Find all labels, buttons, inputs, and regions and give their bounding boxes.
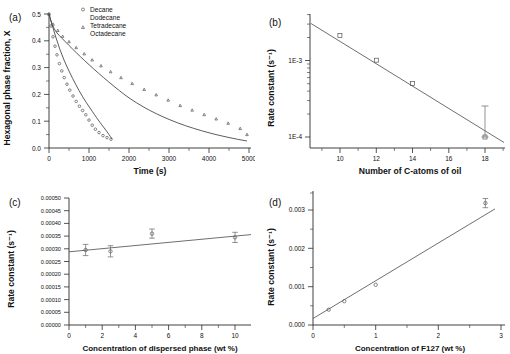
panel-d-x-ticks: 0 1 2 3 — [311, 325, 503, 339]
figure-container: (a) Hexagonal phase fraction, X 0.0 0.1 — [0, 0, 510, 354]
panel-d-ytick-0: 0.000 — [289, 321, 306, 328]
legend-marker-decane — [82, 8, 85, 11]
panel-b-xtick-2: 14 — [409, 155, 417, 162]
panel-c-point-4 — [232, 232, 238, 242]
panel-d-point-4 — [483, 199, 489, 208]
panel-d-points — [327, 199, 488, 312]
panel-b-point-c12 — [374, 58, 378, 62]
panel-c-xtick-4: 8 — [200, 332, 204, 339]
panel-d-xtick-0: 0 — [311, 332, 315, 339]
panel-b-ylabel: Rate constant (s⁻¹) — [266, 49, 276, 127]
panel-d-ytick-2: 0.002 — [289, 245, 306, 252]
panel-d-tag: (d) — [269, 197, 281, 208]
panel-c-tag: (c) — [9, 197, 21, 208]
panel-a-points-slow — [48, 13, 249, 136]
panel-a-ytick-0: 0.0 — [32, 145, 41, 152]
panel-b-xtick-1: 12 — [373, 155, 381, 162]
panel-a-xtick-4: 4000 — [202, 155, 217, 162]
panel-a-xtick-5: 5000 — [242, 155, 255, 162]
panel-c-ytick-5: 0.00025 — [41, 259, 61, 265]
panel-a-ylabel: Hexagonal phase fraction, X — [2, 30, 12, 145]
panel-d-ylabel: Rate constant (s⁻¹) — [266, 228, 276, 306]
panel-c-ytick-2: 0.00010 — [41, 297, 61, 303]
panel-d-xtick-3: 3 — [499, 332, 503, 339]
panel-b-tag: (b) — [269, 17, 281, 28]
panel-b-x-ticks: 10 12 14 16 18 — [322, 148, 503, 162]
panel-c-y-ticks: 0.00000 0.00005 0.00010 0.00015 0.00020 … — [41, 195, 69, 328]
panel-c-ytick-9: 0.00045 — [41, 208, 61, 214]
panel-b-ytick-0: 1E-4 — [288, 133, 302, 140]
panel-c: (c) Rate constant (s⁻¹) 0.00000 0.00005 — [0, 177, 255, 354]
panel-c-ytick-3: 0.00015 — [41, 284, 61, 290]
legend-marker-tetradecane — [82, 26, 85, 29]
panel-b-ytick-1: 1E-3 — [288, 57, 302, 64]
panel-a-tag: (a) — [9, 12, 21, 23]
panel-d-fit-line — [313, 209, 495, 319]
panel-a-xtick-3: 3000 — [162, 155, 177, 162]
panel-d-xlabel: Concentration of F127 (wt %) — [355, 344, 466, 353]
panel-d-xtick-1: 1 — [374, 332, 378, 339]
legend-label-octadecane: Octadecane — [90, 30, 126, 37]
panel-c-ytick-10: 0.00050 — [41, 195, 61, 201]
panel-d-ytick-1: 0.001 — [289, 283, 306, 290]
panel-a-legend: Decane Dodecane Tetradecane Octadecane — [82, 6, 127, 37]
panel-a-ytick-2: 0.2 — [32, 91, 41, 98]
panel-a-x-ticks: 0 1000 2000 3000 4000 5000 — [47, 148, 255, 162]
panel-a-xtick-1: 1000 — [82, 155, 97, 162]
panel-c-xtick-0: 0 — [67, 332, 71, 339]
panel-c-xtick-3: 6 — [167, 332, 171, 339]
panel-c-xlabel: Concentration of dispersed phase (wt %) — [82, 344, 237, 353]
panel-d: (d) Rate constant (s⁻¹) 0.000 0.001 0.00… — [255, 177, 510, 354]
panel-c-xtick-5: 10 — [231, 332, 239, 339]
legend-label-decane: Decane — [90, 6, 113, 13]
panel-c-point-3 — [149, 229, 155, 238]
panel-c-xtick-2: 4 — [134, 332, 138, 339]
panel-a-ytick-4: 0.4 — [32, 37, 41, 44]
panel-c-ytick-8: 0.00040 — [41, 220, 61, 226]
panel-c-x-ticks: 0 2 4 6 8 10 — [67, 325, 239, 339]
legend-label-dodecane: Dodecane — [90, 14, 120, 21]
panel-c-ylabel: Rate constant (s⁻¹) — [6, 230, 16, 308]
panel-b-fit-line — [311, 24, 504, 143]
panel-c-ytick-4: 0.00020 — [41, 271, 61, 277]
panel-d-xtick-2: 2 — [436, 332, 440, 339]
legend-label-tetradecane: Tetradecane — [90, 22, 127, 29]
panel-d-y-ticks: 0.000 0.001 0.002 0.003 — [289, 193, 313, 328]
panel-b-xtick-4: 18 — [481, 155, 489, 162]
panel-a-curve-slow — [49, 14, 247, 141]
panel-b-xtick-3: 16 — [445, 155, 453, 162]
panel-c-point-1 — [83, 244, 89, 255]
panel-d-ytick-3: 0.003 — [289, 206, 306, 213]
panel-a-ytick-1: 0.1 — [32, 118, 41, 125]
panel-a-xtick-0: 0 — [47, 155, 51, 162]
panel-d-point-3 — [374, 283, 377, 286]
panel-a-xlabel: Time (s) — [134, 166, 167, 176]
panel-c-xtick-1: 2 — [100, 332, 104, 339]
panel-b-y-ticks: 1E-4 1E-3 — [288, 15, 310, 141]
panel-a-xtick-2: 2000 — [122, 155, 137, 162]
panel-a-y-ticks: 0.0 0.1 0.2 0.3 0.4 0.5 — [32, 11, 49, 152]
panel-a: (a) Hexagonal phase fraction, X 0.0 0.1 — [0, 0, 255, 177]
panel-b-point-c10 — [338, 33, 342, 37]
panel-c-ytick-6: 0.00030 — [41, 246, 61, 252]
panel-b: (b) Rate constant (s⁻¹) 1E-4 1E-3 — [255, 0, 510, 177]
panel-c-ytick-0: 0.00000 — [41, 322, 61, 328]
panel-c-ytick-1: 0.00005 — [41, 309, 61, 315]
panel-a-ytick-5: 0.5 — [32, 11, 41, 18]
panel-a-ytick-3: 0.3 — [32, 64, 41, 71]
panel-b-xlabel: Number of C-atoms of oil — [359, 166, 462, 176]
panel-b-xtick-0: 10 — [336, 155, 344, 162]
panel-c-ytick-7: 0.00035 — [41, 233, 61, 239]
panel-c-fit-line — [69, 235, 251, 252]
